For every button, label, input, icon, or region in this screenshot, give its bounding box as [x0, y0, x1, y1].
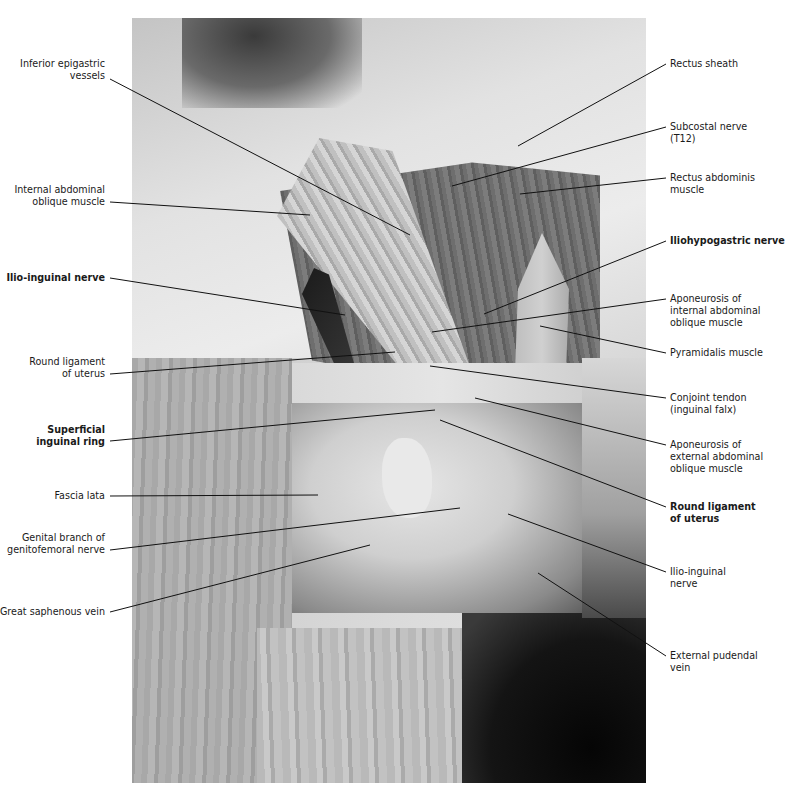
leader-line-aponeurosis-external-oblique — [475, 398, 666, 445]
leader-line-rectus-abdominis-muscle — [520, 178, 666, 194]
leader-line-round-ligament-of-uterus-left — [110, 352, 395, 374]
leader-line-rectus-sheath — [518, 64, 666, 146]
leader-line-genital-branch-genitofemoral-nerve — [110, 508, 460, 550]
leader-line-round-ligament-of-uterus-right — [440, 420, 666, 507]
leader-line-aponeurosis-internal-oblique — [432, 299, 666, 332]
leader-line-fascia-lata — [110, 495, 318, 496]
leader-line-external-pudendal-vein — [538, 573, 666, 656]
leader-line-ilio-inguinal-nerve-left — [110, 278, 345, 315]
leader-line-great-saphenous-vein — [110, 545, 370, 612]
leader-line-subcostal-nerve — [452, 127, 666, 186]
leader-line-internal-abdominal-oblique-muscle — [110, 202, 310, 215]
leader-line-superficial-inguinal-ring — [110, 410, 435, 441]
leader-line-ilio-inguinal-nerve-right — [508, 514, 666, 572]
leader-line-pyramidalis-muscle — [540, 326, 666, 353]
leader-line-conjoint-tendon — [430, 366, 666, 398]
